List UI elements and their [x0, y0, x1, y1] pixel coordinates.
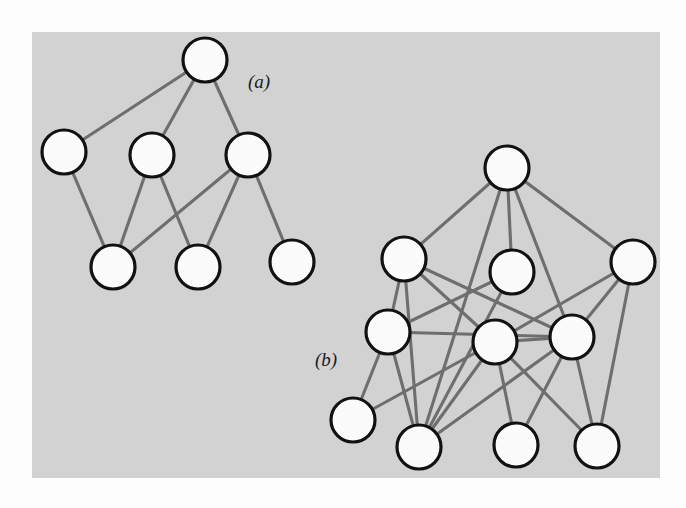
graph-node	[494, 423, 538, 467]
graph-node	[550, 315, 594, 359]
panel-label-a: (a)	[248, 71, 270, 93]
graph-node	[183, 38, 227, 82]
graph-node	[611, 240, 655, 284]
graph-node	[270, 240, 314, 284]
graph-node	[397, 425, 441, 469]
figure-container: (a) (b)	[0, 0, 686, 508]
network-diagram: (a) (b)	[0, 0, 686, 508]
graph-node	[382, 237, 426, 281]
graph-node	[485, 146, 529, 190]
graph-node	[331, 398, 375, 442]
panel-label-b: (b)	[315, 349, 337, 371]
graph-node	[490, 250, 534, 294]
graph-node	[473, 320, 517, 364]
graph-node	[42, 130, 86, 174]
graph-node	[130, 133, 174, 177]
graph-node	[575, 424, 619, 468]
graph-node	[226, 133, 270, 177]
graph-node	[366, 310, 410, 354]
graph-node	[176, 245, 220, 289]
graph-node	[91, 245, 135, 289]
